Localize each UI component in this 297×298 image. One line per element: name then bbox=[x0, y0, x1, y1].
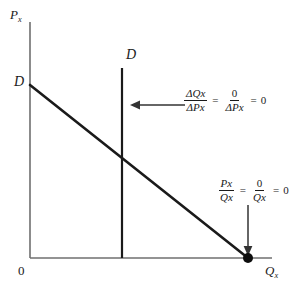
y-axis-label: Px bbox=[10, 8, 22, 21]
diagram-canvas bbox=[0, 0, 297, 298]
ratio-equals-2: = bbox=[273, 185, 279, 196]
ratio-denominator: Qx bbox=[218, 191, 235, 203]
ratio-result: 0 bbox=[283, 185, 289, 196]
slope-result: 0 bbox=[261, 95, 267, 106]
x-intercept-dot bbox=[243, 253, 253, 263]
ratio-numerator: Px bbox=[219, 178, 235, 191]
ratio-equals-1: = bbox=[240, 185, 246, 196]
slope-equals-2: = bbox=[251, 95, 257, 106]
ratio-formula: Px Qx = 0 Qx = 0 bbox=[216, 178, 289, 203]
slope-fraction-right: 0 ΔPx bbox=[224, 88, 246, 113]
slope-fraction-left: ΔQx ΔPx bbox=[184, 88, 207, 113]
demand-vertical-label: D bbox=[126, 48, 136, 62]
slope-denominator: ΔPx bbox=[185, 101, 207, 113]
slope-equals-1: = bbox=[212, 95, 218, 106]
slope-denominator-2: ΔPx bbox=[224, 101, 246, 113]
pointer-arrow-horizontal bbox=[130, 101, 185, 110]
x-axis-label: Qx bbox=[265, 264, 278, 277]
ratio-fraction-left: Px Qx bbox=[218, 178, 235, 203]
slope-numerator: ΔQx bbox=[184, 88, 207, 101]
ratio-denominator-2: Qx bbox=[251, 191, 268, 203]
slope-formula: ΔQx ΔPx = 0 ΔPx = 0 bbox=[182, 88, 266, 113]
demand-diagram: Px Qx 0 D D ΔQx ΔPx = 0 ΔPx = 0 Px Qx = … bbox=[0, 0, 297, 298]
ratio-numerator-2: 0 bbox=[255, 178, 265, 191]
origin-label: 0 bbox=[18, 264, 25, 277]
ratio-fraction-right: 0 Qx bbox=[251, 178, 268, 203]
demand-curve-label: D bbox=[14, 75, 24, 89]
slope-numerator-2: 0 bbox=[230, 88, 240, 101]
pointer-arrow-vertical bbox=[244, 205, 253, 256]
